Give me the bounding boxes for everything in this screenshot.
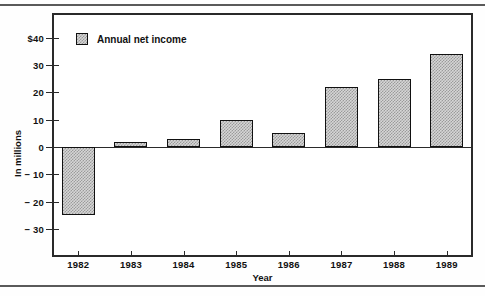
- bar-1985: [220, 120, 253, 147]
- legend: Annual net income: [76, 33, 186, 45]
- y-axis-tick: [46, 174, 52, 175]
- y-axis-tick: [46, 202, 52, 203]
- y-axis-tick: [46, 65, 52, 66]
- x-axis-tick: [447, 251, 448, 257]
- y-axis-tick-inner: [54, 120, 59, 121]
- y-axis-tick-label: − 10: [2, 169, 44, 180]
- x-axis-tick-label: 1988: [371, 259, 417, 270]
- x-axis-tick: [289, 251, 290, 257]
- y-axis-tick-label: 0: [2, 142, 44, 153]
- bar-1984: [167, 139, 200, 147]
- bar-1987: [325, 87, 358, 147]
- x-axis-tick-label: 1982: [55, 259, 101, 270]
- y-axis-tick-inner: [54, 174, 59, 175]
- x-axis-tick-label: 1987: [318, 259, 364, 270]
- legend-swatch-icon: [76, 33, 88, 45]
- y-axis-tick-label: 30: [2, 60, 44, 71]
- y-axis-tick-label: $40: [2, 32, 44, 43]
- x-axis-tick: [131, 251, 132, 257]
- x-axis-tick: [341, 251, 342, 257]
- x-axis-tick: [394, 251, 395, 257]
- y-axis-tick: [46, 92, 52, 93]
- bar-1989: [430, 54, 463, 147]
- y-axis-tick: [46, 229, 52, 230]
- y-axis-tick-inner: [54, 65, 59, 66]
- y-axis-tick: [46, 38, 52, 39]
- bar-1983: [114, 142, 147, 147]
- x-axis-tick: [78, 251, 79, 257]
- y-axis-tick-inner: [54, 202, 59, 203]
- x-axis-tick: [236, 251, 237, 257]
- y-axis-tick-inner: [54, 92, 59, 93]
- bar-1986: [272, 133, 305, 147]
- zero-baseline: [52, 147, 473, 148]
- x-axis-tick-label: 1986: [266, 259, 312, 270]
- y-axis-tick-label: − 30: [2, 223, 44, 234]
- figure-top-rule: [0, 4, 485, 6]
- legend-label: Annual net income: [97, 34, 186, 45]
- x-axis-title: Year: [52, 272, 473, 283]
- bar-1988: [378, 79, 411, 147]
- figure-bottom-rule: [0, 285, 485, 287]
- x-axis-tick-label: 1984: [161, 259, 207, 270]
- y-axis-tick-label: 10: [2, 114, 44, 125]
- y-axis-tick-label: − 20: [2, 196, 44, 207]
- y-axis-tick-inner: [54, 38, 59, 39]
- y-axis-tick-label: 20: [2, 87, 44, 98]
- y-axis-tick: [46, 120, 52, 121]
- figure-container: In millions $403020100− 10− 20− 30 19821…: [0, 0, 485, 296]
- y-axis-tick: [46, 147, 52, 148]
- x-axis-tick-label: 1983: [108, 259, 154, 270]
- x-axis-tick-label: 1985: [213, 259, 259, 270]
- y-axis-tick-inner: [54, 229, 59, 230]
- x-axis-tick-label: 1989: [424, 259, 470, 270]
- x-axis-tick: [184, 251, 185, 257]
- bar-1982: [62, 147, 95, 215]
- y-axis-tick-labels: $403020100− 10− 20− 30: [0, 0, 44, 296]
